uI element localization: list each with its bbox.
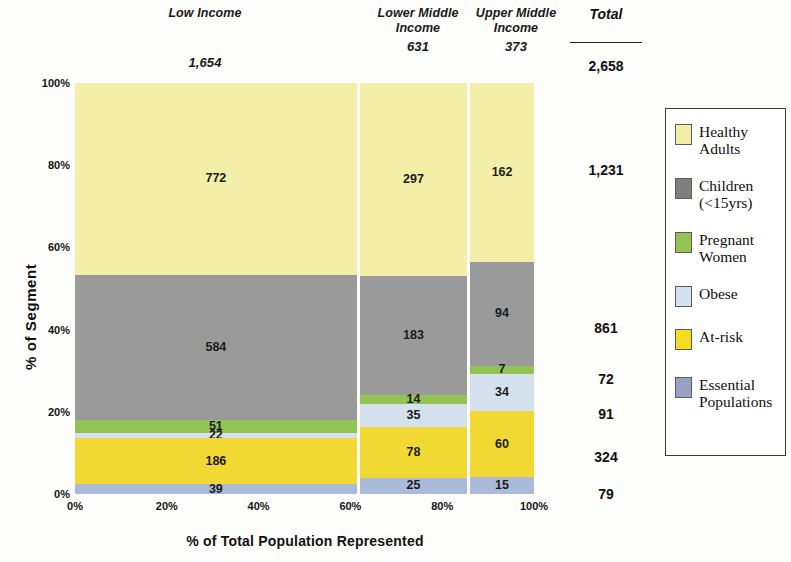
mosaic-segment: 584 bbox=[75, 275, 357, 420]
y-axis-tick: 60% bbox=[20, 241, 70, 253]
mosaic-segment: 162 bbox=[470, 83, 534, 262]
mosaic-segment: 15 bbox=[470, 477, 534, 494]
legend-item-label: At-risk bbox=[699, 328, 743, 345]
y-axis-tick: 20% bbox=[20, 406, 70, 418]
row-total-essential-populations: 79 bbox=[556, 486, 656, 502]
mosaic-segment: 25 bbox=[360, 478, 467, 494]
x-axis-title: % of Total Population Represented bbox=[130, 533, 480, 549]
segment-value-label: 35 bbox=[360, 409, 467, 422]
y-axis-title: % of Segment bbox=[22, 264, 39, 370]
color-swatch-icon bbox=[675, 329, 692, 350]
segment-value-label: 297 bbox=[360, 173, 467, 186]
column-header-line1: Upper Middle bbox=[476, 6, 556, 20]
column-header-line2: Income bbox=[396, 21, 440, 35]
mosaic-segment: 14 bbox=[360, 395, 467, 404]
row-total-healthy-adults: 1,231 bbox=[556, 162, 656, 178]
total-column-header: Total bbox=[556, 6, 656, 22]
legend-item-label: Pregnant Women bbox=[699, 231, 754, 265]
column-header-low-income: Low Income 1,654 bbox=[100, 6, 310, 70]
marimekko-chart: Low Income 1,654 Lower Middle Income 631… bbox=[0, 0, 791, 562]
row-total-obese: 91 bbox=[556, 406, 656, 422]
segment-value-label: 15 bbox=[470, 479, 534, 492]
legend-item-label: Healthy Adults bbox=[699, 123, 748, 157]
segment-value-label: 34 bbox=[470, 386, 534, 399]
segment-value-label: 186 bbox=[75, 455, 357, 468]
column-header-count: 631 bbox=[370, 39, 466, 54]
mosaic-segment: 186 bbox=[75, 438, 357, 484]
segment-value-label: 94 bbox=[470, 307, 534, 320]
x-axis-tick: 20% bbox=[144, 500, 190, 512]
color-swatch-icon bbox=[675, 232, 692, 253]
plot-area: 7725845122186392971831435782516294734601… bbox=[75, 83, 534, 494]
column-header-line2: Income bbox=[494, 21, 538, 35]
legend-item[interactable]: Obese bbox=[675, 285, 738, 307]
x-axis-tick: 80% bbox=[419, 500, 465, 512]
mosaic-column: 29718314357825 bbox=[360, 83, 467, 494]
mosaic-segment: 60 bbox=[470, 411, 534, 477]
mosaic-segment: 7 bbox=[470, 366, 534, 374]
x-axis-tick: 0% bbox=[52, 500, 98, 512]
column-header-upper-middle-income: Upper Middle Income 373 bbox=[468, 6, 564, 54]
row-total-children: 861 bbox=[556, 320, 656, 336]
legend-item[interactable]: Healthy Adults bbox=[675, 123, 748, 157]
mosaic-segment: 35 bbox=[360, 404, 467, 427]
row-total-pregnant-women: 72 bbox=[556, 371, 656, 387]
legend-item[interactable]: Children (<15yrs) bbox=[675, 177, 753, 211]
color-swatch-icon bbox=[675, 286, 692, 307]
legend-item[interactable]: Essential Populations bbox=[675, 376, 772, 410]
x-axis-tick: 100% bbox=[511, 500, 557, 512]
mosaic-column: 162947346015 bbox=[470, 83, 534, 494]
mosaic-segment: 78 bbox=[360, 427, 467, 478]
mosaic-segment: 183 bbox=[360, 276, 467, 395]
segment-value-label: 162 bbox=[470, 166, 534, 179]
color-swatch-icon bbox=[675, 178, 692, 199]
segment-value-label: 584 bbox=[75, 341, 357, 354]
y-axis-tick: 0% bbox=[20, 488, 70, 500]
legend-item-label: Obese bbox=[699, 285, 738, 302]
row-total-at-risk: 324 bbox=[556, 449, 656, 465]
column-header-count: 373 bbox=[468, 39, 564, 54]
legend-item-label: Essential Populations bbox=[699, 376, 772, 410]
column-header-lower-middle-income: Lower Middle Income 631 bbox=[370, 6, 466, 54]
segment-value-label: 772 bbox=[75, 172, 357, 185]
segment-value-label: 39 bbox=[75, 483, 357, 496]
y-axis-tick: 40% bbox=[20, 324, 70, 336]
color-swatch-icon bbox=[675, 377, 692, 398]
segment-value-label: 183 bbox=[360, 329, 467, 342]
grand-total-value: 2,658 bbox=[556, 58, 656, 74]
legend-item-label: Children (<15yrs) bbox=[699, 177, 753, 211]
y-axis-tick: 80% bbox=[20, 159, 70, 171]
legend-item[interactable]: Pregnant Women bbox=[675, 231, 754, 265]
color-swatch-icon bbox=[675, 124, 692, 145]
mosaic-segment: 39 bbox=[75, 484, 357, 494]
mosaic-segment: 297 bbox=[360, 83, 467, 276]
legend-item[interactable]: At-risk bbox=[675, 328, 743, 350]
column-header-line1: Low Income bbox=[168, 6, 241, 20]
x-axis-tick: 60% bbox=[327, 500, 373, 512]
column-header-count: 1,654 bbox=[100, 55, 310, 70]
segment-value-label: 78 bbox=[360, 446, 467, 459]
mosaic-segment: 94 bbox=[470, 262, 534, 366]
y-axis-tick: 100% bbox=[20, 77, 70, 89]
total-header-divider bbox=[570, 42, 642, 43]
column-header-line1: Lower Middle bbox=[377, 6, 458, 20]
mosaic-column: 772584512218639 bbox=[75, 83, 357, 494]
segment-value-label: 25 bbox=[360, 479, 467, 492]
mosaic-segment: 772 bbox=[75, 83, 357, 275]
segment-value-label: 60 bbox=[470, 438, 534, 451]
legend: Healthy AdultsChildren (<15yrs)Pregnant … bbox=[665, 108, 786, 456]
x-axis-tick: 40% bbox=[236, 500, 282, 512]
mosaic-segment: 34 bbox=[470, 374, 534, 412]
